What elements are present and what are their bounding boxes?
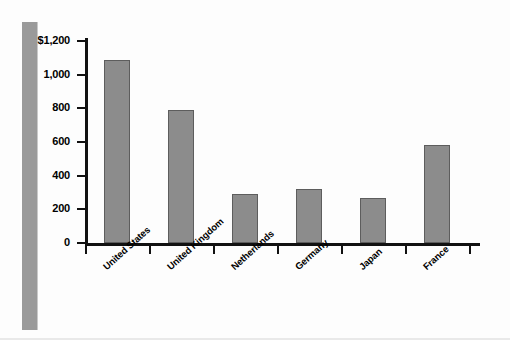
y-tick-mark: [77, 242, 86, 244]
bar: [168, 110, 194, 243]
y-tick-mark: [77, 141, 86, 143]
bar: [360, 198, 386, 243]
x-tick-mark: [277, 246, 279, 254]
bar: [232, 194, 258, 243]
y-tick-label: 400: [24, 170, 70, 181]
bar: [296, 189, 322, 243]
category-label: Japan: [357, 246, 384, 272]
y-tick-mark: [77, 74, 86, 76]
y-tick-label: 1,000: [24, 69, 70, 80]
y-tick-mark: [77, 175, 86, 177]
y-tick-mark: [77, 208, 86, 210]
bar-chart: 02004006008001,000$1,200 United StatesUn…: [0, 0, 510, 353]
x-tick-mark: [341, 246, 343, 254]
x-tick-mark: [85, 246, 87, 254]
y-tick-label: 200: [24, 203, 70, 214]
y-tick-label: 600: [24, 136, 70, 147]
x-axis-line: [85, 243, 480, 246]
x-tick-mark: [213, 246, 215, 254]
x-tick-mark: [149, 246, 151, 254]
x-tick-mark: [469, 246, 471, 254]
chart-page: 02004006008001,000$1,200 United StatesUn…: [0, 0, 510, 353]
y-tick-label: $1,200: [24, 35, 70, 46]
y-tick-mark: [77, 107, 86, 109]
bar: [104, 60, 130, 243]
y-tick-label: 800: [24, 102, 70, 113]
x-tick-mark: [405, 246, 407, 254]
bar: [424, 145, 450, 243]
y-tick-label: 0: [24, 237, 70, 248]
y-tick-mark: [77, 40, 86, 42]
category-label: France: [421, 243, 451, 272]
